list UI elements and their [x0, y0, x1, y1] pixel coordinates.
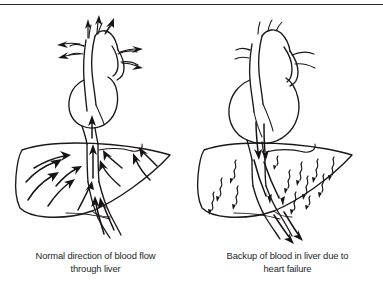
portal-vein: [234, 186, 292, 239]
blood-flow-arrows-normal: [26, 15, 157, 234]
panel-backup-flow: Backup of blood in liver due to heart fa…: [192, 10, 383, 296]
panel-normal-flow: Normal direction of blood flow through l…: [0, 10, 191, 296]
figure-root: Normal direction of blood flow through l…: [0, 0, 383, 296]
enlarged-heart-outline: [229, 20, 315, 160]
heart-outline: [69, 23, 138, 144]
caption-line-1: Backup of blood in liver due to: [192, 250, 383, 263]
caption-line-2: through liver: [0, 263, 191, 276]
caption-normal-flow: Normal direction of blood flow through l…: [0, 250, 191, 275]
normal-flow-illustration: [0, 10, 191, 248]
top-divider-rule: [0, 4, 383, 5]
caption-line-2: heart failure: [192, 263, 383, 276]
backup-flow-illustration: [192, 10, 383, 248]
caption-backup-flow: Backup of blood in liver due to heart fa…: [192, 250, 383, 275]
caption-line-1: Normal direction of blood flow: [0, 250, 191, 263]
